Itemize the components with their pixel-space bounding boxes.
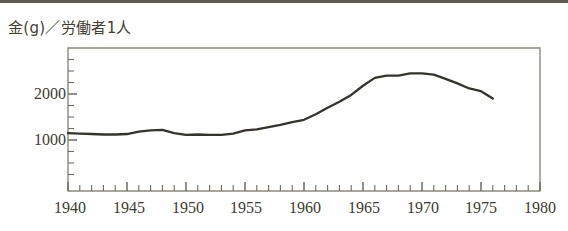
plot-area bbox=[0, 0, 568, 231]
data-series-line bbox=[68, 73, 493, 135]
chart-figure: 金(g)／労働者1人 2000 1000 1940 1945 1950 1955… bbox=[0, 0, 568, 231]
y-axis-ticks bbox=[68, 60, 77, 175]
x-axis-ticks bbox=[68, 182, 540, 191]
